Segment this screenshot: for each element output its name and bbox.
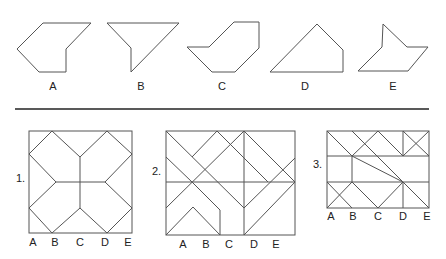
fig3-col-b: B xyxy=(349,210,356,222)
option-shape-e xyxy=(358,24,428,71)
option-label-c: C xyxy=(218,80,226,92)
option-shape-b xyxy=(107,23,179,72)
fig2-col-b: B xyxy=(202,238,209,250)
figure-number-3: 3. xyxy=(313,158,322,170)
figure-1 xyxy=(29,131,132,233)
option-label-d: D xyxy=(301,80,309,92)
fig3-col-a: A xyxy=(327,210,334,222)
option-shape-c xyxy=(187,22,259,72)
option-shape-d xyxy=(270,24,343,72)
figure-2 xyxy=(166,131,295,235)
fig1-col-c: C xyxy=(76,236,84,248)
option-shape-a xyxy=(17,23,91,72)
fig2-col-c: C xyxy=(225,238,233,250)
fig1-col-d: D xyxy=(101,236,109,248)
figure-3 xyxy=(327,131,429,208)
fig3-col-c: C xyxy=(374,210,382,222)
fig2-col-a: A xyxy=(179,238,186,250)
option-label-b: B xyxy=(137,80,144,92)
figure-number-1: 1. xyxy=(16,172,25,184)
option-label-a: A xyxy=(49,80,56,92)
fig1-col-a: A xyxy=(29,236,36,248)
figure-number-2: 2. xyxy=(152,165,161,177)
fig2-col-d: D xyxy=(250,238,258,250)
option-label-e: E xyxy=(389,80,396,92)
fig1-col-b: B xyxy=(51,236,58,248)
fig3-col-d: D xyxy=(399,210,407,222)
fig3-col-e: E xyxy=(423,210,430,222)
fig2-col-e: E xyxy=(272,238,279,250)
fig1-col-e: E xyxy=(124,236,131,248)
